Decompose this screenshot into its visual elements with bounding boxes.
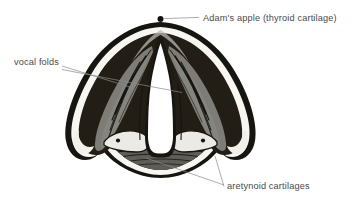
label-aretynoid-cartilages: aretynoid cartilages bbox=[227, 181, 310, 191]
larynx-figure: Adam's apple (thyroid cartilage) vocal f… bbox=[0, 0, 358, 202]
arytenoid-left-dot bbox=[116, 138, 120, 142]
leader-aretynoid-2 bbox=[215, 156, 224, 187]
larynx-illustration: Adam's apple (thyroid cartilage) vocal f… bbox=[0, 0, 358, 202]
larynx-body bbox=[65, 22, 255, 178]
leader-adams-apple-1 bbox=[164, 17, 199, 18]
label-adams-apple: Adam's apple (thyroid cartilage) bbox=[203, 13, 337, 23]
label-vocal-folds: vocal folds bbox=[14, 57, 59, 67]
arytenoid-right-dot bbox=[201, 138, 205, 142]
adams-apple-marker-dot bbox=[158, 16, 164, 22]
